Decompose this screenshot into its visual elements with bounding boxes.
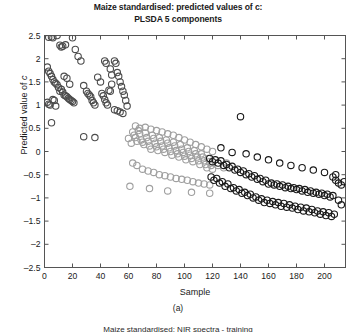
next-figure-title-clipped: Maize standardised: NIR spectra - traini… bbox=[0, 325, 356, 332]
y-tick-label: –1 bbox=[31, 193, 41, 203]
axes-frame bbox=[45, 36, 346, 268]
data-point bbox=[81, 133, 87, 139]
x-tick-label: 20 bbox=[68, 271, 78, 281]
x-tick-label: 140 bbox=[233, 271, 248, 281]
data-point bbox=[146, 185, 152, 191]
figure-caption: (a) bbox=[0, 303, 356, 313]
data-point bbox=[299, 165, 305, 171]
y-tick-label: 0 bbox=[36, 147, 41, 157]
data-point bbox=[48, 120, 54, 126]
figure-container: Maize standardised: predicted values of … bbox=[0, 0, 356, 332]
data-point bbox=[218, 145, 224, 151]
chart-title: Maize standardised: predicted values of … bbox=[0, 2, 356, 25]
y-axis-label-variable: c bbox=[19, 75, 29, 80]
x-tick-label: 180 bbox=[289, 271, 304, 281]
chart-title-line-1: Maize standardised: predicted values of … bbox=[0, 2, 356, 14]
data-point bbox=[67, 81, 73, 87]
data-point bbox=[209, 148, 215, 154]
x-tick-label: 80 bbox=[152, 271, 162, 281]
y-tick-label: –1.5 bbox=[24, 216, 41, 226]
x-tick-label: 0 bbox=[42, 271, 47, 281]
data-point bbox=[107, 66, 113, 72]
data-point bbox=[109, 81, 115, 87]
data-point bbox=[288, 162, 294, 168]
data-point bbox=[277, 160, 283, 166]
data-point bbox=[44, 64, 50, 70]
data-point bbox=[127, 183, 133, 189]
x-axis-label: Sample bbox=[44, 287, 346, 297]
data-point bbox=[310, 167, 316, 173]
data-point bbox=[165, 188, 171, 194]
y-tick-label: 0.5 bbox=[29, 123, 41, 133]
data-point bbox=[229, 149, 235, 155]
data-point bbox=[188, 189, 194, 195]
data-point bbox=[237, 114, 243, 120]
data-point bbox=[207, 190, 213, 196]
data-point bbox=[72, 46, 78, 52]
x-tick-label: 40 bbox=[96, 271, 106, 281]
data-point bbox=[92, 134, 98, 140]
y-tick-label: 2 bbox=[36, 54, 41, 64]
x-tick-label: 120 bbox=[205, 271, 220, 281]
x-tick-label: 100 bbox=[177, 271, 192, 281]
x-tick-label: 200 bbox=[317, 271, 332, 281]
scatter-plot: 020406080100120140160180200–2.5–2–1.5–1–… bbox=[0, 0, 356, 332]
y-tick-label: –2.5 bbox=[24, 263, 41, 273]
data-points-layer bbox=[44, 32, 347, 219]
data-point bbox=[321, 169, 327, 175]
data-point bbox=[265, 157, 271, 163]
y-axis-label-text: Predicted value of bbox=[19, 80, 29, 155]
chart-title-line-2: PLSDA 5 components bbox=[0, 14, 356, 26]
y-tick-label: 2.5 bbox=[29, 31, 41, 41]
series-class-1-dark-gray bbox=[44, 32, 130, 140]
x-tick-label: 160 bbox=[261, 271, 276, 281]
y-tick-label: 1 bbox=[36, 100, 41, 110]
y-tick-label: 1.5 bbox=[29, 77, 41, 87]
y-axis-label: Predicted value of c bbox=[19, 45, 29, 185]
x-tick-label: 60 bbox=[124, 271, 134, 281]
data-point bbox=[243, 151, 249, 157]
y-tick-label: –2 bbox=[31, 239, 41, 249]
data-point bbox=[254, 154, 260, 160]
data-point bbox=[109, 72, 115, 78]
series-class-2-light-gray bbox=[125, 123, 229, 197]
